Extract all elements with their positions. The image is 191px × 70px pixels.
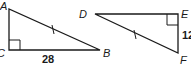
side-label-cb: 28: [42, 53, 54, 65]
side-label-ef: 12: [182, 29, 191, 41]
vertex-label-a: A: [0, 0, 7, 12]
vertex-label-f: F: [180, 54, 188, 66]
triangle-def: D E F 12: [79, 8, 191, 66]
vertex-label-b: B: [103, 47, 110, 59]
right-angle-marker-c: [9, 40, 20, 50]
congruence-tick-df: [134, 30, 136, 39]
triangle-abc: A C B 28: [0, 0, 110, 65]
vertex-label-d: D: [79, 8, 87, 20]
diagram-canvas: A C B 28 D E F 12: [0, 0, 191, 70]
vertex-label-c: C: [0, 47, 5, 59]
vertex-label-e: E: [181, 8, 189, 20]
right-angle-marker-e: [167, 14, 178, 25]
